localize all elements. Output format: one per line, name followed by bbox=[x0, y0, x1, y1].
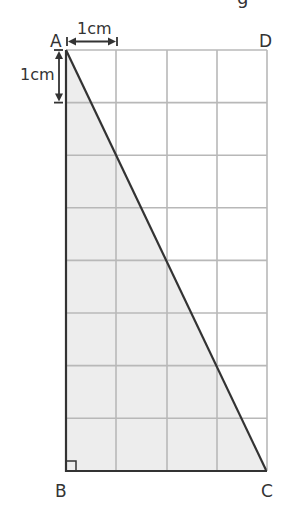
vertical-scale-label: 1cm bbox=[20, 65, 55, 84]
vertex-label-c: C bbox=[261, 481, 273, 501]
horizontal-dimension-arrow bbox=[67, 37, 117, 46]
vertex-label-a: A bbox=[50, 31, 62, 51]
vertical-dimension-arrow bbox=[54, 50, 63, 103]
horizontal-scale-label: 1cm bbox=[77, 19, 112, 38]
clipped-heading-fragment: g bbox=[237, 0, 248, 8]
grid-diagram: g 1cm 1cm A bbox=[0, 0, 282, 512]
vertex-label-d: D bbox=[259, 31, 272, 51]
vertex-label-b: B bbox=[55, 481, 67, 501]
